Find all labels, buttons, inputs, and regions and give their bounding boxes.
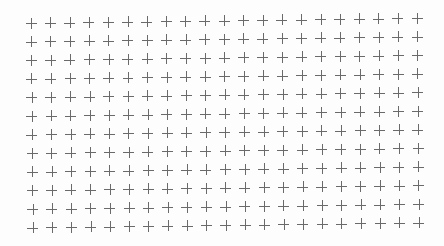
plus-icon	[277, 107, 288, 118]
plus-icon	[123, 72, 134, 83]
plus-icon	[259, 219, 270, 230]
plus-icon	[317, 218, 328, 229]
plus-icon	[45, 73, 56, 84]
plus-icon	[296, 51, 307, 62]
plus-icon	[239, 108, 250, 119]
plus-icon	[355, 218, 366, 229]
plus-icon	[180, 16, 191, 27]
plus-icon	[84, 91, 95, 102]
plus-icon	[123, 165, 134, 176]
plus-icon	[162, 183, 173, 194]
plus-icon	[45, 55, 56, 66]
plus-icon	[103, 91, 114, 102]
plus-icon	[412, 13, 423, 24]
plus-icon	[316, 88, 327, 99]
plus-icon	[161, 72, 172, 83]
plus-icon	[238, 71, 249, 82]
plus-icon	[123, 91, 134, 102]
plus-icon	[355, 144, 366, 155]
plus-icon	[181, 164, 192, 175]
plus-icon	[316, 125, 327, 136]
plus-icon	[122, 16, 133, 27]
plus-icon	[220, 145, 231, 156]
plus-icon	[123, 109, 134, 120]
plus-icon	[276, 14, 287, 25]
plus-icon	[161, 109, 172, 120]
plus-icon	[104, 184, 115, 195]
plus-icon	[199, 15, 210, 26]
plus-icon	[336, 200, 347, 211]
plus-icon	[335, 51, 346, 62]
plus-icon	[336, 181, 347, 192]
plus-icon	[65, 166, 76, 177]
plus-icon	[238, 89, 249, 100]
plus-icon	[220, 182, 231, 193]
plus-icon	[26, 129, 37, 140]
plus-icon	[162, 127, 173, 138]
plus-icon	[65, 184, 76, 195]
plus-icon	[64, 17, 75, 28]
plus-icon	[374, 180, 385, 191]
plus-icon	[46, 185, 57, 196]
plus-icon	[103, 54, 114, 65]
plus-icon	[181, 146, 192, 157]
plus-icon	[161, 16, 172, 27]
plus-icon	[219, 15, 230, 26]
plus-icon	[201, 220, 212, 231]
plus-icon	[316, 181, 327, 192]
plus-icon	[238, 15, 249, 26]
plus-icon	[85, 184, 96, 195]
plus-icon	[84, 35, 95, 46]
plus-icon	[181, 202, 192, 213]
plus-icon	[220, 220, 231, 231]
plus-icon	[104, 221, 115, 232]
plus-icon	[162, 146, 173, 157]
plus-icon	[64, 54, 75, 65]
plus-icon	[297, 219, 308, 230]
plus-icon	[374, 143, 385, 154]
plus-icon	[393, 87, 404, 98]
plus-icon	[26, 18, 37, 29]
plus-icon	[65, 147, 76, 158]
plus-icon	[374, 162, 385, 173]
plus-icon	[412, 106, 423, 117]
plus-icon	[297, 144, 308, 155]
plus-icon	[65, 91, 76, 102]
plus-icon	[65, 73, 76, 84]
plus-icon	[161, 34, 172, 45]
plus-icon	[393, 124, 404, 135]
plus-icon	[26, 92, 37, 103]
plus-icon	[297, 163, 308, 174]
plus-icon	[239, 201, 250, 212]
plus-icon	[180, 34, 191, 45]
plus-icon	[104, 165, 115, 176]
plus-icon	[27, 222, 38, 233]
plus-icon	[355, 125, 366, 136]
plus-icon	[413, 180, 424, 191]
plus-icon	[143, 183, 154, 194]
plus-icon	[315, 14, 326, 25]
plus-icon	[142, 90, 153, 101]
plus-icon	[83, 17, 94, 28]
plus-icon	[412, 124, 423, 135]
plus-icon	[27, 185, 38, 196]
plus-icon	[354, 106, 365, 117]
plus-icon	[316, 144, 327, 155]
plus-icon	[336, 162, 347, 173]
plus-icon	[374, 106, 385, 117]
plus-icon	[259, 182, 270, 193]
plus-icon	[334, 14, 345, 25]
plus-icon	[412, 87, 423, 98]
plus-icon	[335, 125, 346, 136]
plus-icon	[316, 107, 327, 118]
plus-icon	[278, 182, 289, 193]
plus-icon	[316, 163, 327, 174]
plus-icon	[66, 222, 77, 233]
plus-icon	[46, 222, 57, 233]
plus-icon	[296, 70, 307, 81]
plus-icon	[141, 16, 152, 27]
plus-icon	[277, 33, 288, 44]
plus-icon	[84, 110, 95, 121]
plus-icon	[122, 54, 133, 65]
plus-icon	[315, 70, 326, 81]
